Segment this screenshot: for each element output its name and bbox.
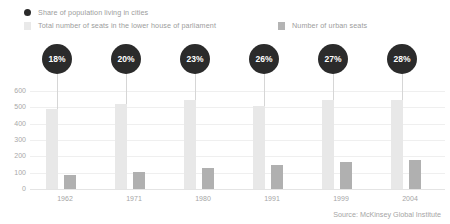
y-axis-tick-label: 0 <box>0 185 26 192</box>
y-axis-tick-label: 500 <box>0 103 26 110</box>
bar-urban-seats[interactable] <box>64 175 76 189</box>
bar-total-seats[interactable] <box>322 100 334 189</box>
y-axis-tick-label: 600 <box>0 87 26 94</box>
bar-group: 18%1962 <box>34 51 96 189</box>
share-of-population-bubble[interactable]: 28% <box>387 44 417 74</box>
x-axis-tick-label: 1971 <box>103 195 165 202</box>
bar-urban-seats[interactable] <box>409 160 421 189</box>
chart-legend: Share of population living in cities Tot… <box>0 0 450 32</box>
gridline <box>30 189 445 190</box>
bar-urban-seats[interactable] <box>271 165 283 189</box>
bar-group: 28%2004 <box>379 51 441 189</box>
share-of-population-bubble[interactable]: 26% <box>249 44 279 74</box>
legend-label: Total number of seats in the lower house… <box>38 21 216 30</box>
bar-urban-seats[interactable] <box>202 168 214 189</box>
legend-item-total-seats: Total number of seats in the lower house… <box>24 21 216 30</box>
x-axis-tick-label: 1991 <box>241 195 303 202</box>
x-axis-tick-label: 1980 <box>172 195 234 202</box>
bar-urban-seats[interactable] <box>340 162 352 189</box>
source-note: Source: McKinsey Global Institute <box>333 210 441 219</box>
bar-group: 27%1999 <box>310 51 372 189</box>
circle-marker-icon <box>24 9 31 16</box>
x-axis-tick-label: 1999 <box>310 195 372 202</box>
square-marker-icon <box>278 22 285 30</box>
share-of-population-bubble[interactable]: 18% <box>42 44 72 74</box>
legend-label: Share of population living in cities <box>38 8 148 17</box>
bar-group: 23%1980 <box>172 51 234 189</box>
legend-row-2: Total number of seats in the lower house… <box>0 19 450 32</box>
legend-item-share-of-population: Share of population living in cities <box>24 8 148 17</box>
share-of-population-bubble[interactable]: 23% <box>180 44 210 74</box>
legend-row-1: Share of population living in cities <box>0 6 450 19</box>
bar-total-seats[interactable] <box>115 104 127 189</box>
x-axis-tick-label: 1962 <box>34 195 96 202</box>
y-axis-tick-label: 100 <box>0 169 26 176</box>
legend-label: Number of urban seats <box>292 21 367 30</box>
share-of-population-bubble[interactable]: 27% <box>318 44 348 74</box>
share-of-population-bubble[interactable]: 20% <box>111 44 141 74</box>
bar-total-seats[interactable] <box>253 106 265 189</box>
x-axis-tick-label: 2004 <box>379 195 441 202</box>
square-marker-icon <box>24 22 31 30</box>
bar-group: 26%1991 <box>241 51 303 189</box>
bar-urban-seats[interactable] <box>133 172 145 189</box>
bar-total-seats[interactable] <box>184 100 196 189</box>
y-axis-tick-label: 200 <box>0 152 26 159</box>
legend-item-urban-seats: Number of urban seats <box>278 21 367 30</box>
bar-group: 20%1971 <box>103 51 165 189</box>
bar-total-seats[interactable] <box>46 109 58 189</box>
y-axis-tick-label: 400 <box>0 120 26 127</box>
chart-plot-area: 0100200300400500600 18%196220%197123%198… <box>0 40 450 200</box>
y-axis-tick-label: 300 <box>0 136 26 143</box>
bar-total-seats[interactable] <box>391 100 403 189</box>
